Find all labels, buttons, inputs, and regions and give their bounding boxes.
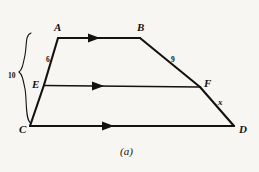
- segment-B-F: [140, 38, 200, 87]
- segment-F-D: [200, 87, 234, 126]
- arrow-on-AB-icon: [88, 34, 100, 43]
- segment-E-F: [44, 86, 200, 88]
- segment-E-C: [30, 85, 44, 126]
- segment-length-label-FD: x: [218, 98, 223, 107]
- brace-left: [19, 33, 31, 123]
- vertex-label-E: E: [32, 79, 39, 90]
- segment-length-label-BF: 9: [171, 56, 175, 64]
- vertex-label-F: F: [204, 78, 211, 89]
- vertex-label-A: A: [54, 22, 61, 33]
- vertex-label-C: C: [19, 124, 26, 135]
- arrow-on-EF-icon: [92, 82, 104, 91]
- segment-length-label-AE: 6: [46, 56, 50, 64]
- geometry-figure: A B C D E F 6 9 x 10 (a): [0, 0, 259, 172]
- brace-length-label-AC: 10: [8, 72, 16, 80]
- vertex-label-D: D: [239, 124, 247, 135]
- figure-caption: (a): [120, 146, 133, 157]
- arrow-on-CD-icon: [102, 122, 114, 131]
- vertex-label-B: B: [137, 22, 144, 33]
